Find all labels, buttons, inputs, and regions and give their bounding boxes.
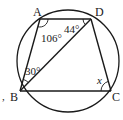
angle-label-ABD: 30° — [25, 65, 40, 77]
vertex-label-A: A — [33, 5, 42, 19]
angle-label-ADB: 44° — [64, 23, 79, 35]
comma-mark: , — [2, 90, 5, 102]
vertex-label-C: C — [112, 90, 120, 104]
angle-label-A: 106° — [41, 32, 62, 44]
vertex-label-B: B — [10, 90, 18, 104]
vertex-label-D: D — [95, 5, 104, 19]
angle-label-C-x: x — [96, 74, 102, 86]
diagram-svg: A D B C 106° 44° 30° x , — [0, 0, 123, 120]
cyclic-quadrilateral-diagram: A D B C 106° 44° 30° x , — [0, 0, 123, 120]
angle-arc-D-ADB — [83, 19, 85, 25]
angle-arc-B-ABD — [23, 79, 28, 82]
angle-arc-C — [101, 81, 108, 91]
